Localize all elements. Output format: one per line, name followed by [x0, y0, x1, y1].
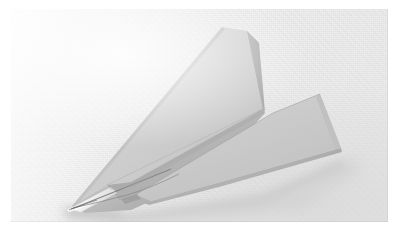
image-canvas	[0, 0, 401, 234]
photograph	[11, 9, 388, 222]
paper-airplane-illustration	[11, 9, 388, 222]
